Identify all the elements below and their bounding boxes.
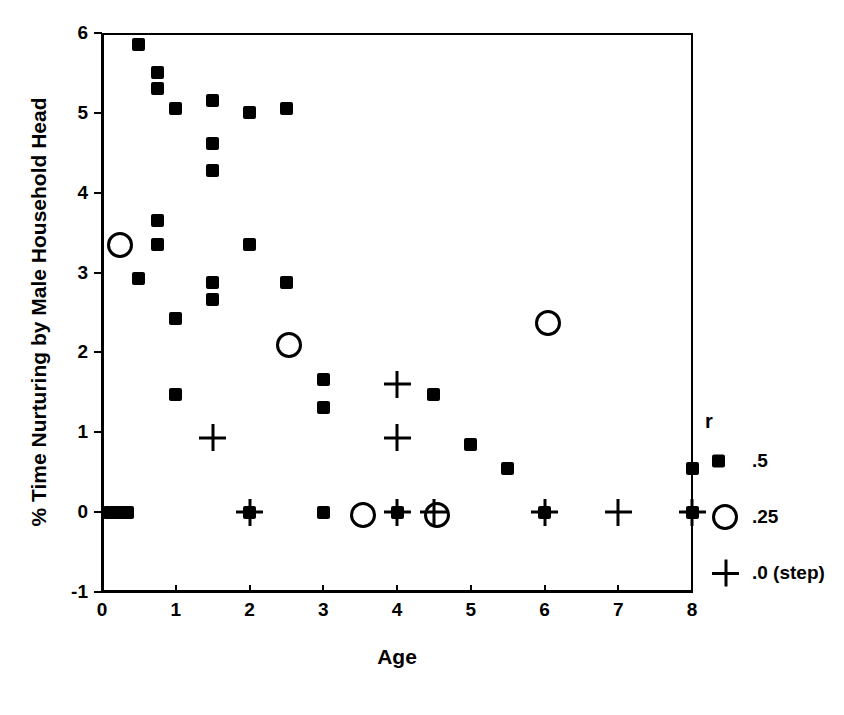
x-tick-label: 5 [451,600,491,619]
chart-canvas: 6543210-1 012345678 % Time Nurturing by … [0,0,844,715]
data-point-square [317,373,330,386]
x-tick-label: 3 [303,600,343,619]
data-point-square [427,388,440,401]
x-axis-title: Age [101,645,693,669]
y-tick-mark [94,351,102,353]
legend-marker-circle-icon [712,504,738,530]
data-point-square [121,506,134,519]
data-point-square [151,238,164,251]
data-point-square [317,506,330,519]
x-tick-mark [175,585,177,593]
x-tick-mark [544,585,546,593]
data-point-circle [350,502,376,528]
y-tick-label: -1 [0,582,88,601]
data-point-square [206,276,219,289]
legend-marker-plus-icon [712,560,739,587]
data-point-plus [605,499,632,526]
legend-marker-square-icon [712,455,725,468]
data-point-plus [199,424,226,451]
data-point-square [206,293,219,306]
data-point-square [317,401,330,414]
y-tick-mark [94,272,102,274]
data-point-square [206,94,219,107]
x-tick-mark [470,585,472,593]
x-tick-mark [617,585,619,593]
data-point-square [169,312,182,325]
data-point-plus [384,371,411,398]
x-tick-label: 4 [377,600,417,619]
legend-entry: .0 (step) [700,556,840,590]
legend-label: .5 [752,450,768,472]
data-point-circle [276,332,302,358]
x-tick-label: 6 [525,600,565,619]
data-point-plus [420,499,447,526]
y-tick-label: 6 [0,23,88,42]
legend-label: .0 (step) [752,562,825,584]
data-point-plus [384,424,411,451]
y-axis-title: % Time Nurturing by Male Household Head [27,52,51,572]
data-point-circle [107,232,133,258]
y-tick-mark [94,192,102,194]
y-tick-mark [94,511,102,513]
data-point-square [151,66,164,79]
data-point-square [169,388,182,401]
x-tick-mark [322,585,324,593]
data-point-square [243,238,256,251]
data-point-square [243,106,256,119]
legend-title: r [705,410,713,433]
data-point-square [501,462,514,475]
data-point-square [280,102,293,115]
data-point-plus [384,499,411,526]
x-tick-label: 8 [672,600,712,619]
x-tick-label: 1 [156,600,196,619]
x-tick-label: 7 [598,600,638,619]
data-point-plus [531,499,558,526]
data-point-square [132,272,145,285]
data-point-square [686,462,699,475]
x-tick-mark [101,585,103,593]
x-tick-label: 2 [230,600,270,619]
data-point-circle [535,310,561,336]
y-tick-mark [94,112,102,114]
data-point-square [464,438,477,451]
data-point-square [132,38,145,51]
y-tick-mark [94,32,102,34]
data-point-square [280,276,293,289]
data-point-square [169,102,182,115]
x-tick-mark [249,585,251,593]
plot-frame-top [101,33,693,35]
x-tick-label: 0 [82,600,122,619]
legend-entry: .5 [700,444,840,478]
data-point-square [206,164,219,177]
data-point-plus [236,499,263,526]
data-point-square [151,82,164,95]
x-tick-mark [396,585,398,593]
data-point-square [206,137,219,150]
legend-entry: .25 [700,500,840,534]
data-point-square [151,214,164,227]
legend-label: .25 [752,506,778,528]
y-tick-mark [94,431,102,433]
x-tick-mark [691,585,693,593]
